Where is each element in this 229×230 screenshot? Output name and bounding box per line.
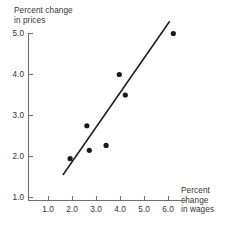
data-layer [63,21,176,175]
scatter-plot-figure: Percent change in prices Percent change … [0,0,229,230]
data-point [123,92,128,97]
data-point [171,31,176,36]
data-point [117,72,122,77]
axis-lines [28,33,187,201]
data-point [68,156,73,161]
plot-canvas [0,0,229,230]
data-point [104,143,109,148]
x-axis-ticks [49,196,169,201]
trend-line [63,21,170,175]
y-axis-ticks [29,34,34,198]
data-point [87,148,92,153]
data-point [84,123,89,128]
